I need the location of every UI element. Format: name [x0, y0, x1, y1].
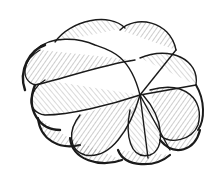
lobed-object-drawing [0, 0, 223, 182]
sketch-lines [23, 20, 203, 165]
sketch-canvas [0, 0, 223, 182]
